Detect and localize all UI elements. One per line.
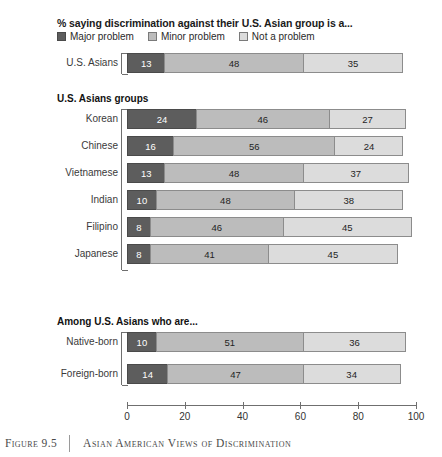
chart-plot-area: U.S. Asians 13 48 35 U.S. Asians groups … <box>0 52 442 407</box>
x-axis-tick-label: 100 <box>408 411 425 422</box>
bar-segment-minor: 56 <box>173 136 334 156</box>
x-axis-tick-label: 40 <box>237 411 248 422</box>
chart-title: % saying discrimination against their U.… <box>57 17 353 29</box>
figure-caption-divider <box>69 435 70 452</box>
stacked-bar-indian: 10 48 38 <box>127 190 403 210</box>
x-axis-tick <box>127 402 128 409</box>
bar-segment-notprob: 38 <box>294 190 403 210</box>
row-label-japanese: Japanese <box>0 243 118 265</box>
row-label-vietnamese: Vietnamese <box>0 162 118 184</box>
bar-segment-major: 13 <box>127 53 164 73</box>
row-label-chinese: Chinese <box>0 135 118 157</box>
bar-segment-minor: 48 <box>156 190 294 210</box>
x-axis: 0 20 40 60 80 100 <box>0 405 442 431</box>
bar-segment-major: 16 <box>127 136 173 156</box>
section-header-groups: U.S. Asians groups <box>57 93 148 104</box>
bar-segment-major: 14 <box>127 364 167 384</box>
row-label-korean: Korean <box>0 108 118 130</box>
legend-label-minor-problem: Minor problem <box>161 31 225 42</box>
section-header-nativity: Among U.S. Asians who are... <box>57 316 198 327</box>
x-axis-tick <box>416 402 417 409</box>
stacked-bar-filipino: 8 46 45 <box>127 217 412 237</box>
bar-segment-notprob: 45 <box>268 244 398 264</box>
stacked-bar-chinese: 16 56 24 <box>127 136 403 156</box>
figure-caption-text: Asian American Views of Discrimination <box>83 437 291 449</box>
bar-segment-major: 10 <box>127 332 156 352</box>
x-axis-tick <box>243 402 244 409</box>
bar-segment-major: 8 <box>127 244 150 264</box>
row-label-native-born: Native-born <box>0 331 118 353</box>
x-axis-tick <box>358 402 359 409</box>
x-axis-tick-label: 60 <box>295 411 306 422</box>
row-label-indian: Indian <box>0 189 118 211</box>
bar-segment-notprob: 37 <box>303 163 410 183</box>
stacked-bar-native-born: 10 51 36 <box>127 332 406 352</box>
x-axis-line <box>127 405 416 406</box>
stacked-bar-korean: 24 46 27 <box>127 109 406 129</box>
chart-legend: Major problem Minor problem Not a proble… <box>57 31 315 42</box>
x-axis-tick-label: 80 <box>353 411 364 422</box>
x-axis-tick-label: 20 <box>179 411 190 422</box>
bar-segment-notprob: 36 <box>303 332 407 352</box>
legend-label-not-a-problem: Not a problem <box>252 31 315 42</box>
bar-segment-minor: 47 <box>167 364 302 384</box>
legend-swatch-major-problem <box>57 32 66 41</box>
figure-caption: Figure 9.5 Asian American Views of Discr… <box>5 432 437 454</box>
legend-item-not-a-problem: Not a problem <box>239 31 315 42</box>
row-label-filipino: Filipino <box>0 216 118 238</box>
legend-item-minor-problem: Minor problem <box>148 31 225 42</box>
legend-item-major-problem: Major problem <box>57 31 134 42</box>
bar-segment-minor: 51 <box>156 332 303 352</box>
bar-segment-minor: 46 <box>196 109 329 129</box>
stacked-bar-us-asians: 13 48 35 <box>127 53 403 73</box>
bar-segment-notprob: 35 <box>303 53 404 73</box>
bar-segment-major: 8 <box>127 217 150 237</box>
legend-swatch-not-a-problem <box>239 32 248 41</box>
bar-segment-notprob: 34 <box>303 364 401 384</box>
legend-label-major-problem: Major problem <box>70 31 134 42</box>
bar-segment-major: 24 <box>127 109 196 129</box>
legend-swatch-minor-problem <box>148 32 157 41</box>
bar-segment-minor: 48 <box>164 163 302 183</box>
bar-segment-notprob: 27 <box>329 109 407 129</box>
bar-segment-notprob: 24 <box>334 136 403 156</box>
stacked-bar-foreign-born: 14 47 34 <box>127 364 401 384</box>
bar-segment-minor: 48 <box>164 53 302 73</box>
row-label-foreign-born: Foreign-born <box>0 363 118 385</box>
bar-segment-minor: 46 <box>150 217 283 237</box>
bar-segment-major: 13 <box>127 163 164 183</box>
row-label-us-asians: U.S. Asians <box>0 52 118 74</box>
x-axis-tick-label: 0 <box>124 411 130 422</box>
bar-segment-notprob: 45 <box>283 217 413 237</box>
bar-segment-minor: 41 <box>150 244 268 264</box>
stacked-bar-japanese: 8 41 45 <box>127 244 398 264</box>
stacked-bar-vietnamese: 13 48 37 <box>127 163 409 183</box>
x-axis-tick <box>300 402 301 409</box>
figure-caption-number: Figure 9.5 <box>5 437 69 449</box>
bar-segment-major: 10 <box>127 190 156 210</box>
x-axis-tick <box>185 402 186 409</box>
